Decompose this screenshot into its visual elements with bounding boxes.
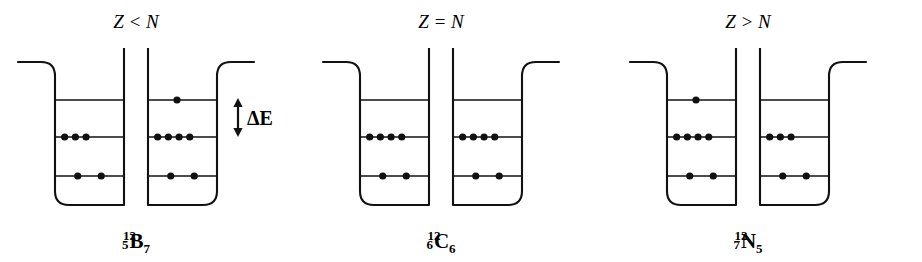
proton-potential-well (323, 48, 429, 205)
proton-dot (72, 133, 79, 140)
panel-b12: Z < N125B7 (18, 11, 254, 256)
delta-e-label: ΔE (247, 107, 273, 129)
atomic-number: 7 (733, 237, 740, 252)
proton-dot (82, 133, 89, 140)
panel-n12: Z > N127N5 (630, 11, 866, 256)
neutron-dot (491, 133, 498, 140)
well-outline (323, 62, 429, 205)
arrow-head-up-icon (233, 98, 242, 107)
proton-dot (366, 133, 373, 140)
panel-title: Z = N (418, 11, 465, 32)
diagram-canvas: Z < N125B7Z = N126C6Z > N127N5ΔE (0, 0, 922, 262)
neutron-number: 7 (144, 241, 151, 256)
neutron-dot (167, 172, 174, 179)
proton-dot (692, 96, 699, 103)
proton-dot (98, 172, 105, 179)
nuclide-label: 125B7 (122, 228, 151, 256)
neutron-dot (480, 133, 487, 140)
proton-dot (387, 133, 394, 140)
delta-e-annotation: ΔE (233, 98, 272, 137)
proton-dot (61, 133, 68, 140)
element-symbol: N (741, 229, 756, 253)
neutron-dot (472, 172, 479, 179)
proton-dot (74, 172, 81, 179)
nuclear-shell-model-figure: Z < N125B7Z = N126C6Z > N127N5ΔE (0, 0, 922, 262)
proton-dot (398, 133, 405, 140)
neutron-dot (766, 133, 773, 140)
neutron-number: 6 (449, 241, 456, 256)
proton-dot (684, 133, 691, 140)
proton-dot (710, 172, 717, 179)
well-outline (630, 62, 736, 205)
neutron-dot (470, 133, 477, 140)
panel-title: Z > N (725, 11, 772, 32)
well-outline (760, 62, 866, 205)
neutron-potential-well (760, 48, 866, 205)
neutron-dot (459, 133, 466, 140)
well-outline (18, 62, 124, 205)
proton-dot (673, 133, 680, 140)
proton-dot (379, 172, 386, 179)
neutron-dot (173, 96, 180, 103)
neutron-dot (787, 133, 794, 140)
neutron-dot (779, 172, 786, 179)
proton-dot (705, 133, 712, 140)
neutron-dot (186, 133, 193, 140)
neutron-dot (154, 133, 161, 140)
arrow-head-down-icon (233, 128, 242, 137)
neutron-potential-well (453, 48, 559, 205)
proton-dot (686, 172, 693, 179)
panel-title: Z < N (113, 11, 160, 32)
proton-dot (403, 172, 410, 179)
nuclide-label: 126C6 (426, 228, 456, 256)
atomic-number: 6 (426, 237, 433, 252)
neutron-dot (496, 172, 503, 179)
neutron-dot (165, 133, 172, 140)
neutron-number: 5 (756, 241, 763, 256)
proton-dot (377, 133, 384, 140)
element-symbol: B (129, 229, 143, 253)
panel-c12: Z = N126C6 (323, 11, 559, 256)
neutron-dot (803, 172, 810, 179)
neutron-dot (191, 172, 198, 179)
neutron-dot (175, 133, 182, 140)
well-outline (453, 62, 559, 205)
nuclide-label: 127N5 (733, 228, 763, 256)
neutron-dot (777, 133, 784, 140)
atomic-number: 5 (122, 237, 129, 252)
proton-potential-well (18, 48, 124, 205)
proton-potential-well (630, 48, 736, 205)
element-symbol: C (434, 229, 449, 253)
proton-dot (694, 133, 701, 140)
